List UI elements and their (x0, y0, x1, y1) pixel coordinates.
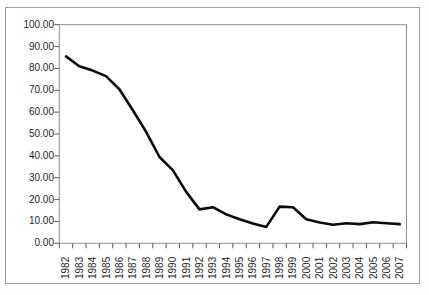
x-axis-label: 1998 (273, 249, 286, 279)
x-axis-label: 1986 (113, 249, 126, 279)
x-axis-label: 1994 (220, 249, 233, 279)
data-series-line (66, 56, 400, 227)
x-axis-label: 1984 (86, 249, 99, 279)
x-axis-label: 2007 (393, 249, 406, 279)
x-axis-label: 2001 (313, 249, 326, 279)
x-axis-label: 1985 (100, 249, 113, 279)
y-axis-label: 50.00 (14, 128, 54, 140)
x-axis-label: 1989 (153, 249, 166, 279)
x-axis-label: 2004 (353, 249, 366, 279)
plot-area (59, 25, 406, 244)
x-axis-label: 1997 (260, 249, 273, 279)
x-axis-label: 2006 (380, 249, 393, 279)
y-axis-label: 70.00 (14, 84, 54, 96)
y-axis-label: 30.00 (14, 172, 54, 184)
x-axis-label: 2003 (340, 249, 353, 279)
chart-canvas: 0.0010.0020.0030.0040.0050.0060.0070.008… (0, 0, 429, 295)
y-axis-label: 100.00 (14, 19, 54, 31)
x-axis-label: 1996 (246, 249, 259, 279)
y-axis-label: 10.00 (14, 215, 54, 227)
x-axis-label: 1983 (73, 249, 86, 279)
x-axis-label: 1999 (286, 249, 299, 279)
x-axis-label: 1995 (233, 249, 246, 279)
x-axis-label: 1982 (59, 249, 72, 279)
x-axis-label: 1993 (206, 249, 219, 279)
x-axis-label: 1988 (140, 249, 153, 279)
x-axis-label: 2000 (300, 249, 313, 279)
x-axis-label: 2005 (367, 249, 380, 279)
y-axis-label: 90.00 (14, 41, 54, 53)
x-axis-label: 1992 (193, 249, 206, 279)
x-axis-label: 1987 (126, 249, 139, 279)
y-axis-label: 20.00 (14, 194, 54, 206)
y-axis-label: 40.00 (14, 150, 54, 162)
y-axis-label: 80.00 (14, 62, 54, 74)
x-axis-label: 1991 (180, 249, 193, 279)
y-axis-label: 0.00 (14, 237, 54, 249)
x-axis-label: 1990 (166, 249, 179, 279)
x-axis-label: 2002 (327, 249, 340, 279)
y-axis-label: 60.00 (14, 106, 54, 118)
